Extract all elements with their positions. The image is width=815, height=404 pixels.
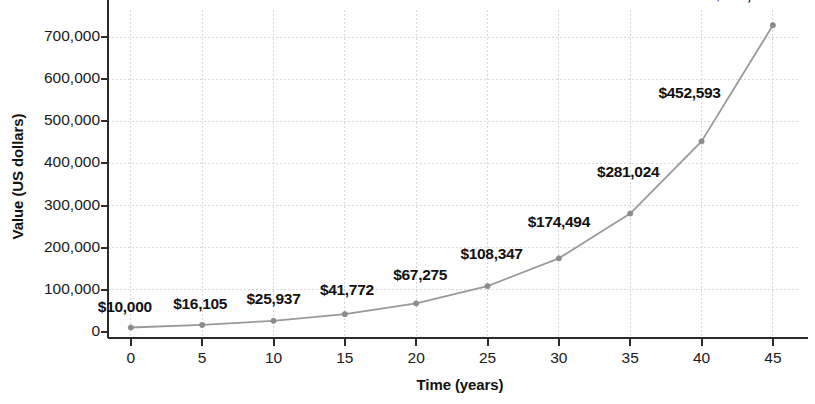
data-point-value-label: $281,024 [597, 163, 659, 181]
y-axis-title: Value (US dollars) [9, 77, 26, 277]
x-tick-label: 20 [386, 349, 446, 367]
data-point-value-label: $67,275 [393, 266, 447, 284]
data-point-value-label: $108,347 [460, 245, 522, 263]
y-tick-label: 700,000 [12, 28, 100, 44]
series-line [131, 25, 773, 327]
x-tick-label: 0 [101, 349, 161, 367]
data-point-marker [699, 139, 704, 144]
y-tick-label: 100,000 [12, 281, 100, 297]
x-axis-title: Time (years) [310, 376, 610, 393]
data-point-markers [128, 23, 775, 331]
chart-container: 0100,000200,000300,000400,000500,000600,… [0, 0, 815, 404]
data-point-marker [414, 301, 419, 306]
x-tick-label: 25 [458, 349, 518, 367]
data-point-marker [556, 256, 561, 261]
x-tick-label: 30 [529, 349, 589, 367]
data-point-value-label: $10,000 [98, 298, 152, 316]
data-point-marker [128, 325, 133, 330]
data-point-marker [342, 312, 347, 317]
plot-canvas [0, 0, 815, 404]
y-tick-label: 0 [12, 323, 100, 339]
x-tick-label: 5 [172, 349, 232, 367]
data-point-marker [200, 322, 205, 327]
data-point-marker [485, 284, 490, 289]
x-tick-label: 15 [315, 349, 375, 367]
x-tick-label: 40 [672, 349, 732, 367]
x-tick-label: 45 [743, 349, 803, 367]
data-point-marker [271, 318, 276, 323]
data-point-value-label: $452,593 [658, 84, 720, 102]
x-tick-label: 35 [600, 349, 660, 367]
data-point-value-label: $41,772 [320, 281, 374, 299]
data-point-value-label: $25,937 [247, 290, 301, 308]
data-point-value-label: $174,494 [528, 213, 590, 231]
axes-group [108, 0, 808, 338]
data-point-value-label: $728,905 [714, 0, 776, 4]
gridlines-group [108, 10, 800, 338]
data-point-value-label: $16,105 [173, 295, 227, 313]
data-series-line [131, 25, 773, 327]
data-point-marker [628, 211, 633, 216]
x-tick-label: 10 [244, 349, 304, 367]
data-point-marker [770, 23, 775, 28]
